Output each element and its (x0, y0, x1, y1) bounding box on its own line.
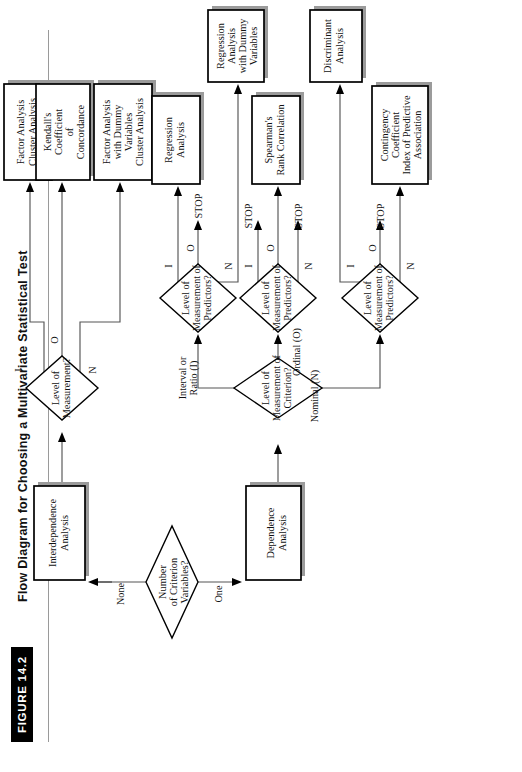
edge-label-p1-i: I (163, 264, 174, 268)
box-line: Spearman's (263, 116, 274, 163)
box-line: Concordance (75, 104, 86, 159)
box-line: Regression (215, 23, 226, 69)
stop-label: STOP (243, 203, 254, 228)
edge-label-p2-n: N (303, 262, 314, 270)
stop-label: STOP (375, 203, 386, 228)
edge-label-lm-o: O (49, 336, 60, 343)
node-line: Level of (362, 280, 373, 315)
box-line: Variables (248, 27, 259, 65)
decision-number-of-criterion-variables[interactable]: Number of Criterion Variables? (146, 526, 198, 638)
node-line: Measurement of (271, 354, 282, 421)
box-line: Dependence (265, 507, 276, 558)
box-line: with Dummy (112, 104, 123, 159)
stop-label: STOP (193, 193, 204, 218)
box-line: Rank Correlation (275, 104, 286, 175)
box-dependence-analysis[interactable]: Dependence Analysis (246, 482, 305, 580)
box-line: Analysis (59, 515, 70, 551)
box-line: Analysis (226, 28, 237, 64)
node-line: Measurement of (373, 264, 384, 331)
box-line: Interdependence (47, 499, 58, 567)
edge-label-one: One (213, 585, 224, 602)
box-regression-analysis[interactable]: Regression Analysis (152, 92, 204, 184)
node-line: Measurement? (61, 357, 72, 418)
node-line: of Criterion (168, 558, 179, 606)
node-line: Measurement of (271, 264, 282, 331)
edge-label-p3-n: N (405, 262, 416, 270)
node-line: Predictors? (282, 275, 293, 321)
box-line: Analysis (277, 515, 288, 551)
decision-level-of-measurement-predictors-interval[interactable]: Level of Measurement of Predictors? (160, 264, 236, 332)
box-line: Coefficient (390, 112, 401, 158)
edge-label-none: None (115, 582, 126, 605)
box-regression-analysis-with-dummy-variables[interactable]: Regression Analysis with Dummy Variables (208, 6, 268, 82)
edge-label-lm-n: N (87, 366, 98, 374)
node-line: Measurement of (191, 264, 202, 331)
box-line: Analysis (175, 122, 186, 158)
stop-label: STOP (293, 203, 304, 228)
edge-label-lm-i: I (13, 368, 24, 372)
edge-label-p3-o: O (367, 244, 378, 251)
edge-label-ordinal: Ordinal (O) (291, 328, 303, 376)
edge-label-p2-o: O (265, 244, 276, 251)
flowchart-canvas: Number of Criterion Variables? Level of … (0, 0, 522, 772)
node-line: Level of (260, 370, 271, 405)
box-line: Index of Predictive (401, 95, 412, 174)
box-line: Contingency (379, 108, 390, 161)
edge-label-interval-ratio-2: Ratio (I) (188, 361, 200, 396)
box-line: with Dummy (237, 18, 248, 73)
edge-label-interval-ratio-1: Interval or (177, 356, 188, 399)
edge-label-p1-o: O (185, 244, 196, 251)
edge-label-nominal: Nominal (N) (309, 370, 321, 422)
box-spearmans-rank-correlation[interactable]: Spearman's Rank Correlation (252, 92, 304, 184)
box-line: Association (412, 111, 423, 160)
box-interdependence-analysis[interactable]: Interdependence Analysis (34, 482, 89, 580)
box-line: Cluster Analysis (134, 98, 145, 166)
figure-page: FIGURE 14.2 Flow Diagram for Choosing a … (0, 0, 522, 772)
box-line: Variables (123, 113, 134, 151)
decision-level-of-measurement-predictors-ordinal[interactable]: Level of Measurement of Predictors? (240, 264, 316, 332)
box-discriminant-analysis[interactable]: Discriminant Analysis (310, 6, 366, 82)
box-line: Kendall's (42, 113, 53, 151)
box-line: Factor Analysis (101, 100, 112, 164)
box-line: Analysis (334, 28, 345, 64)
box-factor-analysis-with-dummy-variables[interactable]: Factor Analysis with Dummy Variables Clu… (94, 80, 156, 180)
node-line: Level of (180, 280, 191, 315)
box-kendalls-coefficient-of-concordance[interactable]: Kendall's Coefficient of Concordance (36, 80, 94, 180)
node-line: Variables? (179, 560, 190, 603)
box-line: of (64, 127, 75, 136)
box-line: Discriminant (322, 19, 333, 73)
box-line: Coefficient (53, 109, 64, 155)
stop-terminals: STOP STOP STOP STOP STOP (193, 193, 386, 228)
edge-label-p3-i: I (345, 264, 356, 268)
node-line: Level of (260, 280, 271, 315)
node-line: Number (157, 565, 168, 599)
node-line: Level of (50, 370, 61, 405)
node-line: Predictors? (384, 275, 395, 321)
edge-label-p1-n: N (223, 262, 234, 270)
box-contingency-coefficient[interactable]: Contingency Coefficient Index of Predict… (372, 82, 432, 184)
box-line: Regression (163, 117, 174, 163)
box-line: Factor Analysis (15, 100, 26, 164)
edge-label-p2-i: I (243, 264, 254, 268)
decision-level-of-measurement-predictors-nominal[interactable]: Level of Measurement of Predictors? (342, 264, 418, 332)
node-line: Predictors? (202, 275, 213, 321)
